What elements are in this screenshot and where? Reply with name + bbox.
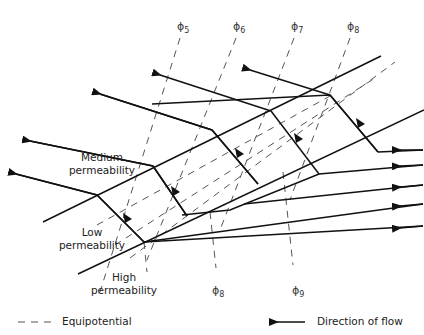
high-permeability-label: High permeability bbox=[84, 271, 164, 297]
phi-label-bottom-1: ϕ8 bbox=[212, 284, 224, 299]
medium-permeability-label: Medium permeability bbox=[62, 151, 142, 177]
flow-arrows bbox=[16, 70, 423, 228]
low-permeability-label: Low permeability bbox=[52, 226, 132, 252]
legend-equipotential: Equipotential bbox=[62, 315, 132, 327]
legend-equipotential-label: Equipotential bbox=[62, 315, 132, 327]
phi-label-bottom-2: ϕ9 bbox=[292, 284, 304, 299]
phi-label-top-4: ϕ8 bbox=[347, 20, 359, 35]
phi-label-top-1: ϕ5 bbox=[177, 20, 189, 35]
phi-label-top-3: ϕ7 bbox=[291, 20, 303, 35]
legend-flow: Direction of flow bbox=[317, 315, 403, 327]
low-layer-arrowheads bbox=[123, 118, 365, 223]
phi-label-top-2: ϕ6 bbox=[233, 20, 245, 35]
legend-flow-label: Direction of flow bbox=[317, 315, 403, 327]
